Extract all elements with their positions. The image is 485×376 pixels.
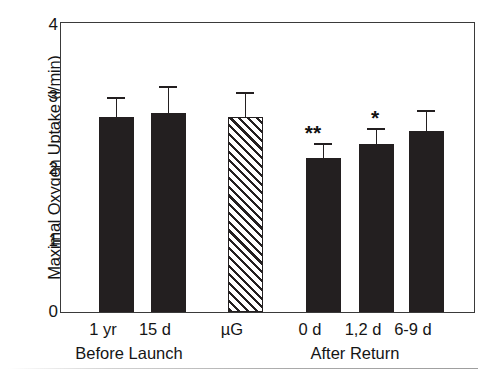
y-tick-label-4: 4 bbox=[49, 15, 58, 35]
error-bar-stem-0-d bbox=[323, 145, 325, 158]
bar-micro-g bbox=[228, 117, 263, 312]
error-bar-stem-6-9-d bbox=[426, 112, 428, 131]
category-label-micro-g: µG bbox=[197, 320, 267, 339]
error-bar-stem-15-d bbox=[168, 88, 170, 113]
chart-figure: Maximal Oxygen Uptake (l/min) 4 3 2 1 0 bbox=[0, 0, 485, 376]
plot-area bbox=[60, 22, 475, 313]
error-bar-stem-1-2-d bbox=[376, 130, 378, 144]
bar-0-d bbox=[306, 158, 341, 312]
error-bar-stem-micro-g bbox=[245, 94, 247, 117]
group-label-after-return: After Return bbox=[290, 344, 420, 363]
bar-1-yr bbox=[99, 117, 134, 312]
bar-15-d bbox=[151, 113, 186, 312]
category-label-6-9-d: 6-9 d bbox=[378, 320, 448, 339]
error-bar-cap-1-yr bbox=[107, 97, 125, 99]
significance-marker-1-2-d: * bbox=[349, 107, 401, 128]
group-label-before-launch: Before Launch bbox=[58, 344, 200, 363]
error-bar-cap-micro-g bbox=[236, 92, 254, 94]
scan-artifact-line bbox=[8, 368, 478, 369]
significance-marker-0-d: ** bbox=[287, 122, 339, 143]
y-tick-mark-3 bbox=[53, 97, 60, 99]
y-tick-mark-1 bbox=[53, 240, 60, 242]
error-bar-stem-1-yr bbox=[116, 99, 118, 117]
y-tick-mark-2 bbox=[53, 168, 60, 170]
category-label-15-d: 15 d bbox=[120, 320, 190, 339]
y-tick-label-0: 0 bbox=[49, 302, 58, 322]
error-bar-cap-6-9-d bbox=[417, 110, 435, 112]
bar-1-2-d bbox=[359, 144, 394, 312]
bar-6-9-d bbox=[409, 131, 444, 312]
error-bar-cap-15-d bbox=[159, 86, 177, 88]
